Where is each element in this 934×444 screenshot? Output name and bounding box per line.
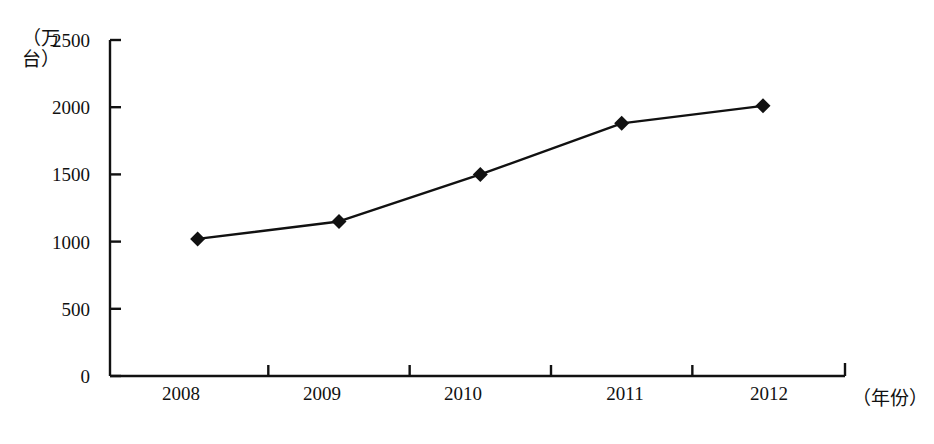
data-point-marker bbox=[331, 214, 346, 229]
axis-lines bbox=[110, 40, 845, 376]
line-chart-figure: （万台） 2500 2000 1500 1000 500 0 2008 2009… bbox=[0, 0, 934, 444]
data-point-marker bbox=[473, 167, 488, 182]
plot-area bbox=[0, 0, 934, 444]
x-axis-ticks bbox=[268, 363, 845, 376]
data-point-marker bbox=[756, 98, 771, 113]
data-point-marker bbox=[614, 116, 629, 131]
data-point-markers bbox=[190, 98, 770, 246]
data-point-marker bbox=[190, 231, 205, 246]
y-axis-ticks bbox=[110, 40, 121, 376]
